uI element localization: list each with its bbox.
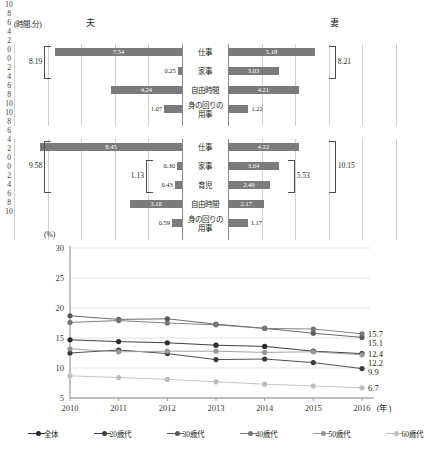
bar-wife bbox=[228, 105, 248, 113]
legend-dot-icon bbox=[175, 431, 180, 436]
legend-item[interactable]: 40歳代 bbox=[240, 428, 278, 439]
bracket-label-wife: 10.15 bbox=[338, 161, 355, 170]
bar-value-wife: 1.22 bbox=[251, 105, 262, 113]
gridline bbox=[295, 139, 296, 240]
bar-charts-unit-label: (時間.分) bbox=[14, 18, 42, 29]
bar-value-wife: 4.22 bbox=[228, 143, 299, 151]
series-point bbox=[67, 346, 72, 351]
x-axis-tick-label: 2015 bbox=[305, 403, 322, 413]
series-point bbox=[262, 382, 267, 387]
series-point bbox=[262, 326, 267, 331]
axis-tick-husband: 6 bbox=[0, 126, 18, 135]
gridline bbox=[362, 139, 363, 240]
axis-tick-wife: 10 bbox=[0, 99, 18, 108]
legend-item[interactable]: 30歳代 bbox=[167, 428, 205, 439]
x-axis-unit-label: (年) bbox=[377, 403, 392, 413]
legend-dot-icon bbox=[36, 431, 41, 436]
bracket-label-husband: 8.19 bbox=[20, 57, 42, 66]
wife-group-title: 妻 bbox=[330, 16, 339, 29]
bar-value-husband: 4.24 bbox=[111, 86, 182, 94]
y-axis-tick-label: 10 bbox=[56, 363, 65, 373]
series-point bbox=[213, 357, 218, 362]
axis-tick-wife: 0 bbox=[0, 162, 18, 171]
bar-category-label: 自由時間 bbox=[182, 87, 228, 96]
legend-dot-icon bbox=[321, 431, 326, 436]
series-point bbox=[359, 352, 364, 357]
bar-category-label: 育児 bbox=[182, 182, 228, 191]
bar-value-wife: 2.49 bbox=[228, 181, 270, 189]
gridline bbox=[148, 44, 149, 126]
series-point bbox=[165, 377, 170, 382]
legend-item[interactable]: 50歳代 bbox=[313, 428, 351, 439]
axis-tick-wife: 2 bbox=[0, 63, 18, 72]
x-axis-tick-label: 2014 bbox=[256, 403, 274, 413]
legend-item[interactable]: 60歳代 bbox=[386, 428, 424, 439]
axis-tick-wife: 10 bbox=[0, 207, 18, 216]
bracket-husband-total bbox=[44, 46, 51, 79]
figure-root: (時間.分)夫妻10864200246810仕事7.545.18家事0.253.… bbox=[0, 0, 433, 463]
bar-value-husband: 0.59 bbox=[150, 219, 170, 227]
bar-husband bbox=[172, 219, 182, 227]
y-axis-tick-label: 5 bbox=[60, 393, 64, 403]
bar-value-husband: 8.45 bbox=[40, 143, 182, 151]
axis-tick-husband: 8 bbox=[0, 117, 18, 126]
legend-item[interactable]: 全体 bbox=[28, 428, 58, 439]
series-point bbox=[262, 344, 267, 349]
series-point bbox=[311, 326, 316, 331]
gridline bbox=[14, 139, 15, 240]
gridline bbox=[295, 44, 296, 126]
series-point bbox=[116, 349, 121, 354]
legend-dot-icon bbox=[248, 431, 253, 436]
bracket-husband-total bbox=[44, 141, 51, 193]
series-point bbox=[213, 343, 218, 348]
y-axis-tick-label: 25 bbox=[56, 273, 65, 283]
bar-value-husband: 3.10 bbox=[130, 200, 182, 208]
series-point bbox=[67, 337, 72, 342]
axis-tick-husband: 2 bbox=[0, 36, 18, 45]
legend-label: 40歳代 bbox=[256, 428, 278, 439]
bracket-label-husband: 9.58 bbox=[20, 161, 42, 170]
bar-charts-section: (時間.分)夫妻10864200246810仕事7.545.18家事0.253.… bbox=[0, 0, 433, 228]
series-point bbox=[311, 383, 316, 388]
axis-tick-wife: 6 bbox=[0, 189, 18, 198]
bracket-label-wife-inner: 5.53 bbox=[297, 171, 310, 180]
series-point bbox=[262, 356, 267, 361]
legend-item[interactable]: 20歳代 bbox=[94, 428, 132, 439]
gridline bbox=[115, 44, 116, 126]
husband-group-title: 夫 bbox=[86, 16, 95, 29]
series-point bbox=[165, 320, 170, 325]
axis-tick-wife: 4 bbox=[0, 72, 18, 81]
legend-label: 50歳代 bbox=[329, 428, 351, 439]
series-point bbox=[311, 349, 316, 354]
series-point bbox=[311, 360, 316, 365]
y-axis-tick-label: 30 bbox=[56, 243, 65, 253]
series-point bbox=[116, 318, 121, 323]
series-end-label: 15.1 bbox=[368, 338, 383, 348]
bar-category-label: 家事 bbox=[182, 163, 228, 172]
bracket-label-husband-inner: 1.13 bbox=[122, 171, 144, 180]
legend-dot-icon bbox=[394, 431, 399, 436]
axis-tick-wife: 4 bbox=[0, 180, 18, 189]
gridline bbox=[396, 44, 397, 126]
bar-value-husband: 0.25 bbox=[156, 67, 176, 75]
bar-category-label: 身の回りの用事 bbox=[182, 102, 228, 119]
series-point bbox=[165, 340, 170, 345]
legend-label: 30歳代 bbox=[183, 428, 205, 439]
series-point bbox=[213, 322, 218, 327]
bar-value-wife: 3.04 bbox=[228, 162, 279, 170]
legend-label: 20歳代 bbox=[110, 428, 132, 439]
axis-tick-husband: 4 bbox=[0, 135, 18, 144]
x-axis-tick-label: 2016 bbox=[354, 403, 371, 413]
gridline bbox=[115, 139, 116, 240]
bar-value-wife: 1.17 bbox=[251, 219, 262, 227]
bar-wife bbox=[228, 219, 248, 227]
bar-value-wife: 3.03 bbox=[228, 67, 279, 75]
legend-dot-icon bbox=[102, 431, 107, 436]
bar-value-wife: 5.18 bbox=[228, 48, 315, 56]
bar-value-wife: 2.17 bbox=[228, 200, 264, 208]
bracket-husband-inner bbox=[146, 160, 153, 193]
x-axis-tick-label: 2013 bbox=[208, 403, 225, 413]
x-axis-tick-label: 2012 bbox=[159, 403, 176, 413]
axis-tick-husband: 8 bbox=[0, 9, 18, 18]
gridline bbox=[14, 44, 15, 126]
